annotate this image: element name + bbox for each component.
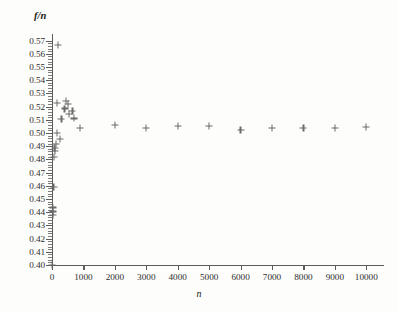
data-point — [49, 204, 56, 211]
data-point — [50, 211, 57, 218]
y-tick-label: 0.43 — [29, 220, 45, 230]
y-tick-label: 0.49 — [29, 141, 45, 151]
data-point — [69, 108, 76, 115]
y-tick-label: 0.42 — [29, 234, 45, 244]
figure-canvas: f/n 0.400.410.420.430.440.450.460.470.48… — [0, 0, 398, 312]
data-point — [331, 125, 338, 132]
y-tick-label: 0.52 — [29, 102, 45, 112]
x-tick-label: 9000 — [326, 272, 344, 282]
data-point — [54, 99, 61, 106]
x-tick — [335, 265, 336, 270]
x-tick — [83, 265, 84, 270]
y-axis-labels: 0.400.410.420.430.440.450.460.470.480.49… — [0, 0, 45, 312]
data-point — [52, 147, 59, 154]
y-tick-label: 0.51 — [29, 115, 45, 125]
x-tick-label: 0 — [50, 272, 55, 282]
data-point — [49, 262, 56, 269]
x-tick — [241, 265, 242, 270]
y-tick-label: 0.46 — [29, 181, 45, 191]
y-tick-label: 0.50 — [29, 128, 45, 138]
x-tick-label: 3000 — [137, 272, 155, 282]
x-tick-label: 7000 — [263, 272, 281, 282]
data-point — [237, 127, 244, 134]
y-tick-label: 0.53 — [29, 88, 45, 98]
x-tick-label: 4000 — [169, 272, 187, 282]
data-point — [300, 124, 307, 131]
data-point — [50, 184, 57, 191]
data-point — [71, 115, 78, 122]
y-tick-label: 0.45 — [29, 194, 45, 204]
x-tick-label: 10000 — [355, 272, 378, 282]
y-tick-label: 0.54 — [29, 75, 45, 85]
plot-area — [52, 36, 382, 265]
y-tick-label: 0.44 — [29, 207, 45, 217]
x-axis-title: n — [197, 288, 202, 299]
data-point — [111, 122, 118, 129]
y-tick-label: 0.56 — [29, 49, 45, 59]
x-tick — [209, 265, 210, 270]
x-tick — [366, 265, 367, 270]
data-point — [174, 122, 181, 129]
y-tick-label: 0.47 — [29, 168, 45, 178]
x-tick — [303, 265, 304, 270]
x-tick — [115, 265, 116, 270]
y-tick-label: 0.55 — [29, 62, 45, 72]
data-point — [206, 123, 213, 130]
data-point — [58, 116, 65, 123]
data-point — [363, 124, 370, 131]
x-tick-label: 2000 — [106, 272, 124, 282]
x-tick-label: 5000 — [200, 272, 218, 282]
x-tick — [272, 265, 273, 270]
y-tick-label: 0.40 — [29, 260, 45, 270]
x-tick-label: 8000 — [294, 272, 312, 282]
data-point — [269, 125, 276, 132]
x-tick-label: 6000 — [231, 272, 249, 282]
x-tick-label: 1000 — [74, 272, 92, 282]
data-point — [143, 124, 150, 131]
x-tick — [178, 265, 179, 270]
data-point — [77, 125, 84, 132]
x-tick — [146, 265, 147, 270]
data-point — [64, 100, 71, 107]
data-point — [56, 135, 63, 142]
data-point — [55, 42, 62, 49]
y-tick-label: 0.57 — [29, 36, 45, 46]
y-tick-label: 0.48 — [29, 154, 45, 164]
y-tick-label: 0.41 — [29, 247, 45, 257]
